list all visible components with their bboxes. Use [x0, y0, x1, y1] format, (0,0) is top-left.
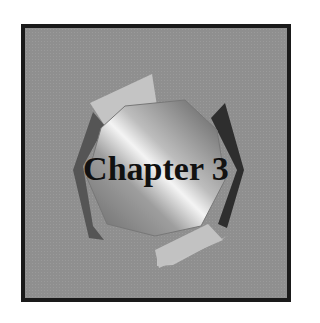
chapter-title: Chapter 3 — [25, 150, 287, 188]
chapter-cover-frame: Chapter 3 — [21, 24, 291, 302]
